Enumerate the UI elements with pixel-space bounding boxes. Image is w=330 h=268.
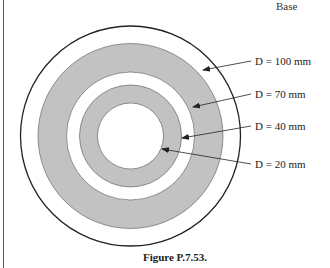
circle-d20 [98,103,164,169]
figure-caption-text: Figure P.7.53. [143,251,207,263]
label-d20: D = 20 mm [255,158,306,170]
label-d70: D = 70 mm [255,88,306,100]
label-d40: D = 40 mm [255,120,306,132]
figure-caption: Figure P.7.53. [0,251,330,263]
label-d100: D = 100 mm [255,55,311,67]
concentric-circles-diagram: D = 100 mm D = 70 mm D = 40 mm D = 20 mm [0,0,330,268]
